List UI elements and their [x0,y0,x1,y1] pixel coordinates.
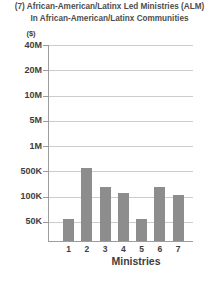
x-axis-tick-label: 3 [98,244,112,254]
plot-area: 40M20M10M5M1M500K100K50K1234567 [0,0,219,286]
y-axis-tick-label: 100K [0,191,42,202]
gridline [48,45,193,46]
x-axis-tick-label: 6 [153,244,167,254]
y-axis-tick-label: 10M [0,90,42,101]
y-axis-tick-label: 1M [0,141,42,152]
y-axis-tick-label: 40M [0,40,42,51]
bar-ministry-7 [173,195,184,241]
x-axis-line [48,241,193,242]
y-axis-line [48,45,49,241]
bar-ministry-6 [154,187,165,241]
x-axis-tick-label: 7 [171,244,185,254]
bar-ministry-3 [100,187,111,241]
x-axis-title: Ministries [104,255,168,267]
bar-ministry-1 [63,219,74,241]
x-axis-tick-label: 1 [62,244,76,254]
x-axis-tick-label: 4 [116,244,130,254]
y-axis-tick-label: 500K [0,166,42,177]
gridline [48,121,193,122]
bar-ministry-5 [136,219,147,241]
bar-ministry-2 [81,168,92,241]
y-axis-tick-label: 5M [0,115,42,126]
x-axis-tick-label: 2 [80,244,94,254]
bar-ministry-4 [118,193,129,241]
gridline [48,171,193,172]
y-axis-tick-label: 50K [0,216,42,227]
gridline [48,146,193,147]
chart-figure: (7) African-American/Latinx Led Ministri… [0,0,219,286]
gridline [48,96,193,97]
y-axis-tick-label: 20M [0,65,42,76]
gridline [48,70,193,71]
x-axis-tick-label: 5 [135,244,149,254]
